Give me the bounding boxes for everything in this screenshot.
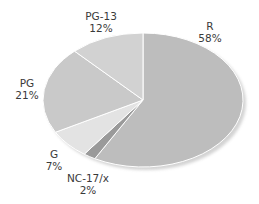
label-g-pct: 7% [46,160,63,172]
label-nc17-name: NC-17/x [67,172,109,184]
label-pg13-pct: 12% [85,22,117,34]
label-r-name: R [198,20,221,32]
label-nc17-pct: 2% [67,184,109,196]
label-pg13-name: PG-13 [85,10,117,22]
label-r-pct: 58% [198,32,221,44]
label-nc17: NC-17/x 2% [67,172,109,196]
label-g: G 7% [46,148,63,172]
label-pg: PG 21% [15,77,38,101]
label-r: R 58% [198,20,221,44]
label-pg-pct: 21% [15,89,38,101]
label-pg-name: PG [15,77,38,89]
label-g-name: G [46,148,63,160]
pie-slices [43,33,243,167]
label-pg13: PG-13 12% [85,10,117,34]
